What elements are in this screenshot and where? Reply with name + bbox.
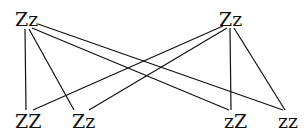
edge-p2-o2 (89, 28, 227, 110)
edge-p1-o1 (25, 29, 26, 110)
edge-p2-o3 (230, 28, 231, 110)
parents-genotype-p2: Zz (219, 10, 242, 29)
edge-p1-o2 (29, 29, 74, 110)
edge-p2-o1 (33, 26, 223, 110)
offspring-genotype-o4: zz (278, 112, 298, 131)
offspring-genotype-o3: zZ (224, 112, 247, 131)
parents-genotype-p1: Zz (15, 10, 38, 29)
edge-p2-o4 (234, 28, 285, 110)
genetic-cross-diagram: ZzZzZZZzzZzz (0, 0, 306, 136)
offspring-genotype-o2: Zz (72, 112, 95, 131)
offspring-genotype-o1: ZZ (15, 112, 41, 131)
cross-lines (0, 0, 306, 136)
